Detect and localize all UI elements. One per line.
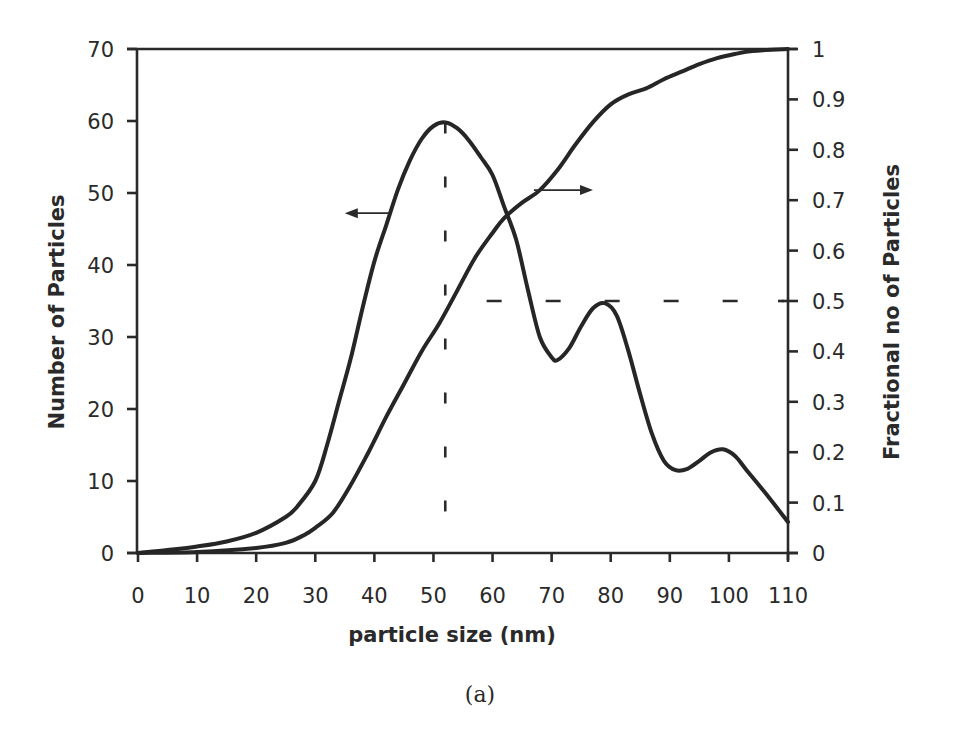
x-tick-label: 10 — [184, 584, 211, 608]
y-right-tick-label: 0.3 — [812, 391, 845, 415]
y-axis-right-title: Fractional no of Particles — [880, 164, 904, 460]
y-right-tick-label: 0.2 — [812, 441, 845, 465]
y-tick-label: 30 — [87, 326, 114, 350]
y-tick-label: 70 — [87, 38, 114, 62]
right-arrowhead-icon — [580, 185, 593, 195]
y-right-tick-label: 0 — [812, 542, 825, 566]
x-axis-title: particle size (nm) — [348, 623, 556, 647]
y-tick-label: 10 — [87, 470, 114, 494]
y-tick-label: 0 — [101, 542, 114, 566]
x-tick-label: 20 — [243, 584, 270, 608]
y-axis-title: Number of Particles — [45, 194, 69, 429]
left-arrowhead-icon — [345, 208, 358, 218]
x-tick-label: 60 — [479, 584, 506, 608]
y-right-tick-label: 0.5 — [812, 290, 845, 314]
x-tick-label: 0 — [131, 584, 144, 608]
x-tick-label: 50 — [420, 584, 447, 608]
left-axis-ticks: 010203040506070 — [87, 38, 137, 566]
x-tick-label: 40 — [361, 584, 388, 608]
x-tick-label: 90 — [656, 584, 683, 608]
y-tick-label: 50 — [87, 182, 114, 206]
y-tick-label: 20 — [87, 398, 114, 422]
axis-pointer-arrows — [345, 185, 593, 218]
y-right-tick-label: 0.4 — [812, 340, 845, 364]
y-right-tick-label: 0.9 — [812, 88, 845, 112]
y-right-tick-label: 0.6 — [812, 240, 845, 264]
x-axis-ticks: 0102030405060708090100110 — [131, 553, 808, 608]
y-right-tick-label: 1 — [812, 38, 825, 62]
cumulative-fraction-curve — [138, 49, 788, 553]
y-tick-label: 40 — [87, 254, 114, 278]
y-tick-label: 60 — [87, 110, 114, 134]
y-right-tick-label: 0.7 — [812, 189, 845, 213]
x-tick-label: 30 — [302, 584, 329, 608]
x-tick-label: 100 — [709, 584, 749, 608]
y-right-tick-label: 0.1 — [812, 492, 845, 516]
number-distribution-curve — [138, 122, 788, 553]
x-tick-label: 70 — [538, 584, 565, 608]
x-tick-label: 110 — [768, 584, 808, 608]
plot-frame — [127, 48, 798, 560]
particle-size-chart: 0102030405060708090100110 01020304050607… — [0, 0, 956, 752]
y-right-tick-label: 0.8 — [812, 139, 845, 163]
x-tick-label: 80 — [597, 584, 624, 608]
figure-caption: (a) — [465, 682, 495, 707]
